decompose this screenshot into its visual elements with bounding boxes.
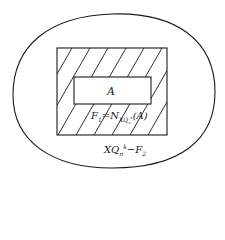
inner-region-label: A [107, 86, 115, 97]
band-region-label: F1=NXQnk(A) [91, 111, 148, 126]
band-label-n-subsub: n [128, 121, 130, 125]
outer-label-main: XQ [104, 144, 119, 155]
band-label-main: F [91, 110, 98, 121]
band-label-mid: =N [102, 110, 119, 121]
outer-label-tail: −F [127, 144, 142, 155]
band-label-arg: (A) [133, 110, 148, 121]
outer-region-label: XQnk−F2 [104, 144, 146, 157]
outer-label-sub: n [119, 150, 123, 157]
band-label-n-sub: XQ [119, 116, 128, 123]
outer-label-tail-sub: 2 [142, 150, 146, 157]
